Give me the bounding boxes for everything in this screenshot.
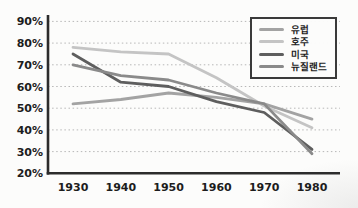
legend-line-swatch-australia xyxy=(259,40,284,43)
y-tick-label: 70% xyxy=(17,59,43,72)
x-tick-label: 1980 xyxy=(297,181,328,194)
chart-legend: 유럽호주미국뉴질랜드 xyxy=(250,17,337,79)
legend-line-swatch-new-zealand xyxy=(259,65,284,68)
legend-item-new-zealand: 뉴질랜드 xyxy=(259,62,328,72)
legend-item-europe: 유럽 xyxy=(259,25,328,35)
x-tick-label: 1950 xyxy=(153,181,184,194)
y-tick-label: 40% xyxy=(17,124,43,137)
y-tick-label: 60% xyxy=(17,81,43,94)
y-tick-label: 80% xyxy=(17,37,43,50)
legend-label-europe: 유럽 xyxy=(291,25,309,35)
y-tick-label: 30% xyxy=(17,146,43,159)
y-tick-label: 50% xyxy=(17,102,43,115)
legend-line-swatch-europe xyxy=(259,28,284,31)
legend-label-new-zealand: 뉴질랜드 xyxy=(291,62,327,72)
x-tick-label: 1960 xyxy=(201,181,232,194)
y-tick-label: 20% xyxy=(17,167,43,180)
legend-line-swatch-usa xyxy=(259,53,284,56)
x-tick-label: 1970 xyxy=(249,181,280,194)
x-tick-label: 1940 xyxy=(105,181,136,194)
x-tick-label: 1930 xyxy=(58,181,89,194)
line-chart: 90%80%70%60%50%40%30%20%1930194019501960… xyxy=(0,0,358,208)
legend-item-usa: 미국 xyxy=(259,50,328,60)
y-tick-label: 90% xyxy=(17,15,43,28)
legend-item-australia: 호주 xyxy=(259,37,328,47)
legend-label-usa: 미국 xyxy=(291,50,309,60)
legend-label-australia: 호주 xyxy=(291,37,309,47)
